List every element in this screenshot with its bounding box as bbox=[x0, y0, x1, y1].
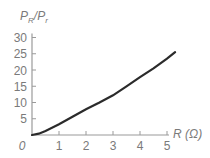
x-tick-label: 2 bbox=[83, 139, 90, 153]
x-tick-label: 1 bbox=[56, 139, 63, 153]
chart: 12345 51015202530 0 PR/Pr R (Ω) bbox=[0, 0, 210, 158]
y-tick-label: 30 bbox=[14, 31, 28, 45]
series-line bbox=[32, 52, 175, 135]
y-title-sub2: r bbox=[45, 16, 48, 25]
y-axis-title: PR/Pr bbox=[20, 9, 48, 25]
y-tick-label: 5 bbox=[20, 112, 27, 126]
y-tick-label: 15 bbox=[14, 80, 28, 94]
y-tick-label: 10 bbox=[14, 96, 28, 110]
x-tick-label: 3 bbox=[110, 139, 117, 153]
axes bbox=[32, 34, 169, 136]
y-ticks: 51015202530 bbox=[14, 31, 36, 126]
y-title-main2: P bbox=[37, 9, 45, 23]
x-axis-title: R (Ω) bbox=[173, 127, 202, 141]
y-title-main1: P bbox=[20, 9, 28, 23]
origin-label: 0 bbox=[19, 139, 26, 153]
x-ticks: 12345 bbox=[56, 131, 171, 153]
y-tick-label: 25 bbox=[14, 47, 28, 61]
y-tick-label: 20 bbox=[14, 64, 28, 78]
x-tick-label: 5 bbox=[164, 139, 171, 153]
x-tick-label: 4 bbox=[137, 139, 144, 153]
